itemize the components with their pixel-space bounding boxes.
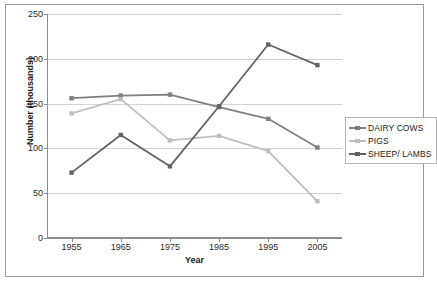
x-axis-ticks: 195519651975198519952005: [47, 238, 342, 256]
data-point-marker: [168, 92, 172, 96]
legend-item-label: SHEEP/ LAMBS: [368, 149, 432, 159]
data-point-marker: [266, 117, 270, 121]
x-tick-label: 2005: [307, 242, 327, 252]
data-point-marker: [69, 111, 73, 115]
series-line: [72, 99, 318, 201]
y-axis-title: Number (thousands): [25, 21, 35, 181]
data-point-marker: [119, 97, 123, 101]
data-point-marker: [266, 42, 270, 46]
series-layer: [47, 14, 342, 238]
legend-item-label: DAIRY COWS: [368, 123, 423, 133]
y-tick-mark: [44, 193, 48, 194]
legend-swatch-icon: [349, 123, 366, 132]
data-point-marker: [217, 104, 221, 108]
y-tick-mark: [44, 14, 48, 15]
x-tick-mark: [121, 238, 122, 242]
data-point-marker: [315, 199, 319, 203]
plot-area: [47, 14, 342, 238]
x-tick-mark: [219, 238, 220, 242]
y-axis-ticks: 050100150200250: [5, 14, 43, 238]
data-point-marker: [69, 96, 73, 100]
y-tick-mark: [44, 148, 48, 149]
legend-swatch-icon: [349, 136, 366, 145]
data-point-marker: [315, 63, 319, 67]
data-point-marker: [119, 133, 123, 137]
legend-item[interactable]: SHEEP/ LAMBS: [349, 147, 432, 160]
x-tick-mark: [268, 238, 269, 242]
y-tick-label: 0: [7, 233, 43, 243]
data-point-marker: [266, 149, 270, 153]
x-tick-label: 1985: [209, 242, 229, 252]
data-point-marker: [69, 170, 73, 174]
y-tick-label: 250: [7, 9, 43, 19]
x-tick-mark: [72, 238, 73, 242]
legend-item[interactable]: PIGS: [349, 134, 432, 147]
data-point-marker: [315, 145, 319, 149]
x-tick-label: 1955: [62, 242, 82, 252]
legend-item[interactable]: DAIRY COWS: [349, 121, 432, 134]
y-tick-mark: [44, 59, 48, 60]
y-tick-mark: [44, 104, 48, 105]
x-tick-label: 1975: [160, 242, 180, 252]
data-point-marker: [217, 134, 221, 138]
legend-swatch-icon: [349, 149, 366, 158]
data-point-marker: [168, 138, 172, 142]
x-tick-label: 1995: [258, 242, 278, 252]
y-tick-mark: [44, 238, 48, 239]
y-tick-label: 50: [7, 188, 43, 198]
data-point-marker: [168, 164, 172, 168]
series-line: [72, 44, 318, 172]
x-axis-title: Year: [47, 255, 342, 265]
x-tick-label: 1965: [111, 242, 131, 252]
x-tick-mark: [170, 238, 171, 242]
x-tick-mark: [317, 238, 318, 242]
chart-legend: DAIRY COWSPIGSSHEEP/ LAMBS: [345, 117, 437, 164]
legend-item-label: PIGS: [368, 136, 389, 146]
